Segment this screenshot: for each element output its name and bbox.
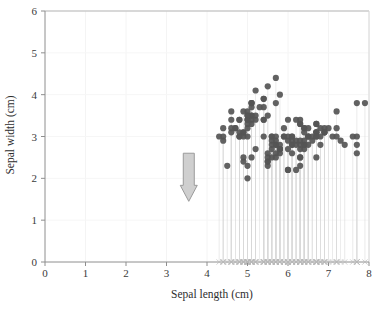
scatter-point [273,75,279,81]
scatter-point [354,100,360,106]
x-tick-label: 4 [204,267,210,279]
scatter-point [228,108,234,114]
scatter-point [297,163,303,169]
scatter-point [354,142,360,148]
y-tick-label: 1 [32,214,38,226]
scatter-point [285,117,291,123]
scatter-point [273,100,279,106]
scatter-point [253,87,259,93]
stem-lines [219,78,365,262]
scatter-point [277,92,283,98]
scatter-point [220,125,226,131]
scatter-chart-figure: 0123456780123456 Sepal length (cm) Sepal… [0,0,380,311]
y-tick-label: 6 [32,5,38,17]
scatter-point [244,175,250,181]
scatter-point [261,133,267,139]
x-tick-label: 0 [42,267,48,279]
scatter-point [236,117,242,123]
scatter-point [240,154,246,160]
scatter-point [265,83,271,89]
scatter-point [228,117,234,123]
scatter-point [257,104,263,110]
x-tick-label: 1 [83,267,89,279]
x-tick-label: 2 [123,267,129,279]
scatter-point [248,100,254,106]
scatter-point [313,154,319,160]
x-tick-label: 6 [285,267,291,279]
x-tick-label: 5 [245,267,251,279]
scatter-point [244,121,250,127]
scatter-point [244,112,250,118]
scatter-point [297,142,303,148]
y-tick-label: 3 [32,131,38,143]
down-arrow-annotation [180,153,197,201]
annotation-layer [180,153,197,201]
scatter-point [293,117,299,123]
plot-svg: 0123456780123456 Sepal length (cm) Sepal… [0,0,380,311]
scatter-point [253,146,259,152]
scatter-point [277,146,283,152]
y-axis-title: Sepal width (cm) [4,95,17,174]
x-tick-label: 3 [164,267,170,279]
scatter-point [342,142,348,148]
scatter-point [317,142,323,148]
scatter-point [297,154,303,160]
scatter-point [224,163,230,169]
y-tick-label: 2 [32,172,38,184]
scatter-point [269,142,275,148]
scatter-point [289,150,295,156]
scatter-point [265,112,271,118]
x-tick-label: 8 [366,267,372,279]
scatter-point [273,154,279,160]
scatter-point [220,133,226,139]
scatter-point [354,133,360,139]
scatter-point [313,121,319,127]
scatter-point [354,150,360,156]
scatter-point [313,133,319,139]
scatter-point [244,163,250,169]
scatter-point [248,154,254,160]
y-tick-label: 0 [32,256,38,268]
y-tick-label: 4 [32,89,38,101]
scatter-point [228,125,234,131]
scatter-point [261,96,267,102]
x-tick-label: 7 [326,267,332,279]
scatter-point [285,167,291,173]
x-axis-title: Sepal length (cm) [171,288,253,301]
scatter-point [281,133,287,139]
scatter-point [362,100,368,106]
scatter-point [334,108,340,114]
scatter-point [305,133,311,139]
scatter-point [281,125,287,131]
scatter-point [334,125,340,131]
scatter-point [334,133,340,139]
y-tick-label: 5 [32,47,38,59]
scatter-point [236,133,242,139]
